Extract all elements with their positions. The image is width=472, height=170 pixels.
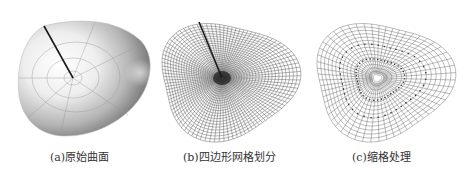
panel-a-original-surface — [0, 0, 160, 145]
caption-c: (c)缩格处理 — [352, 148, 411, 164]
caption-a: (a)原始曲面 — [50, 148, 109, 164]
caption-b: (b)四边形网格划分 — [183, 148, 276, 164]
panel-c-coarsened-mesh — [315, 0, 472, 145]
quad-mesh-image — [160, 0, 315, 145]
coarsened-mesh-image — [315, 0, 472, 145]
panel-b-quad-mesh — [160, 0, 315, 145]
shaded-surface-image — [0, 0, 160, 145]
